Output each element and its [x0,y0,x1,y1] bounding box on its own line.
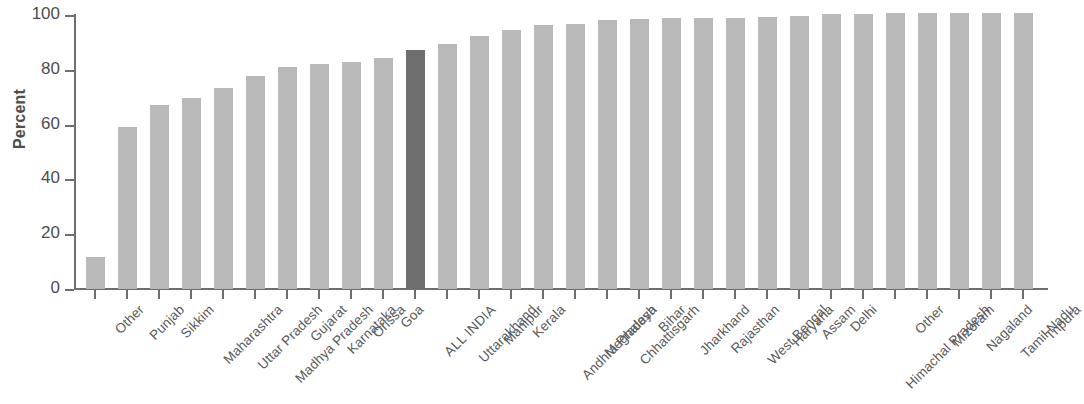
bar [790,16,809,289]
x-tick-label: Sikkim [178,302,217,341]
x-tick-mark [254,290,256,299]
x-tick-mark [478,290,480,299]
bar [566,24,585,289]
bar [662,18,681,289]
x-tick-mark [222,290,224,299]
x-tick-mark [414,290,416,299]
bar [918,13,937,289]
y-tick-mark [65,179,74,181]
x-tick-label: Other [112,302,147,337]
x-tick-mark [510,290,512,299]
bar [278,67,297,289]
x-tick-mark [318,290,320,299]
bar [534,25,553,289]
x-tick-mark [766,290,768,299]
x-tick-mark [94,290,96,299]
x-tick-mark [382,290,384,299]
x-tick-mark [638,290,640,299]
bar [342,62,361,289]
bar [182,98,201,289]
bar [758,17,777,289]
x-tick-mark [606,290,608,299]
x-tick-mark [798,290,800,299]
x-tick-mark [734,290,736,299]
x-tick-label: Punjab [146,302,187,343]
bar [374,58,393,289]
x-tick-mark [350,290,352,299]
bar [246,76,265,289]
bar [886,13,905,289]
y-axis-label: Percent [11,79,29,159]
plot-area [74,15,1046,289]
bar [630,19,649,289]
bar [406,50,425,289]
bar [438,44,457,289]
x-tick-mark [926,290,928,299]
x-tick-mark [542,290,544,299]
bar [150,105,169,289]
bar [694,18,713,289]
x-tick-mark [894,290,896,299]
x-tick-mark [702,290,704,299]
y-tick-label: 80 [41,59,60,79]
y-tick-label: 60 [41,114,60,134]
x-tick-mark [126,290,128,299]
x-tick-mark [190,290,192,299]
bar [310,64,329,289]
bar [86,257,105,289]
x-tick-mark [670,290,672,299]
y-tick-mark [65,15,74,17]
bar [982,13,1001,289]
x-tick-mark [574,290,576,299]
x-tick-label: Other [912,302,947,337]
y-tick-label: 20 [41,223,60,243]
y-tick-label: 40 [41,168,60,188]
x-tick-mark [958,290,960,299]
x-tick-mark [158,290,160,299]
y-tick-mark [65,289,74,291]
bar [214,88,233,289]
y-tick-mark [65,234,74,236]
x-tick-mark [830,290,832,299]
bar [118,127,137,289]
bar [822,14,841,289]
bar [502,30,521,289]
x-tick-mark [990,290,992,299]
x-tick-mark [1022,290,1024,299]
x-tick-mark [862,290,864,299]
bar [1014,13,1033,289]
y-tick-label: 100 [32,4,60,24]
bar [598,20,617,289]
bar [470,36,489,289]
bar [854,14,873,289]
y-tick-mark [65,125,74,127]
x-tick-mark [286,290,288,299]
bar [726,18,745,289]
x-tick-mark [446,290,448,299]
bar [950,13,969,289]
y-tick-label: 0 [51,278,60,298]
y-tick-mark [65,70,74,72]
